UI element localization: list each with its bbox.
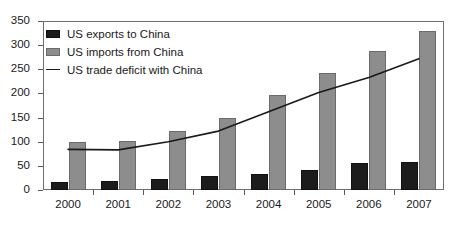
y-tick-label: 200 (11, 87, 30, 99)
x-tick-label: 2005 (294, 199, 344, 211)
x-tick-label: 2001 (93, 199, 143, 211)
legend-item-exports: US exports to China (46, 26, 246, 42)
y-tick-mark (38, 190, 43, 191)
y-tick-label: 350 (11, 15, 30, 27)
legend-item-label: US trade deficit with China (67, 62, 203, 78)
x-tick-mark (93, 190, 94, 195)
y-tick-label: 50 (17, 160, 30, 172)
x-tick-label: 2003 (193, 199, 243, 211)
chart-legend: US exports to China US imports from Chin… (46, 26, 246, 80)
x-tick-label: 2006 (344, 199, 394, 211)
x-tick-mark (294, 190, 295, 195)
x-tick-label: 2000 (43, 199, 93, 211)
x-tick-label: 2002 (143, 199, 193, 211)
y-tick-label: 100 (11, 136, 30, 148)
y-tick-label: 150 (11, 112, 30, 124)
gray-square-swatch-icon (46, 48, 60, 56)
y-tick-label: 0 (24, 184, 30, 196)
x-tick-mark (244, 190, 245, 195)
y-tick-label: 250 (11, 63, 30, 75)
legend-item-imports: US imports from China (46, 44, 246, 60)
legend-item-deficit: US trade deficit with China (46, 62, 246, 78)
x-tick-label: 2004 (244, 199, 294, 211)
y-axis: 050100150200250300350 (0, 0, 40, 229)
line-swatch-icon (46, 69, 60, 70)
x-tick-mark (394, 190, 395, 195)
x-tick-label: 2007 (394, 199, 444, 211)
legend-item-label: US exports to China (67, 26, 170, 42)
legend-item-label: US imports from China (67, 44, 183, 60)
x-tick-mark (143, 190, 144, 195)
black-square-swatch-icon (46, 30, 60, 38)
x-tick-mark (193, 190, 194, 195)
y-tick-label: 300 (11, 39, 30, 51)
x-tick-mark (344, 190, 345, 195)
chart-container: 050100150200250300350 200020012002200320… (0, 0, 458, 229)
